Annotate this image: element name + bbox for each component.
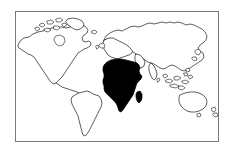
world-map-figure: World map with Africa highlighted — [0, 0, 233, 153]
world-map-graphic — [0, 0, 233, 153]
region-madagascar-highlighted — [136, 91, 142, 103]
region-tasmania — [197, 113, 201, 117]
